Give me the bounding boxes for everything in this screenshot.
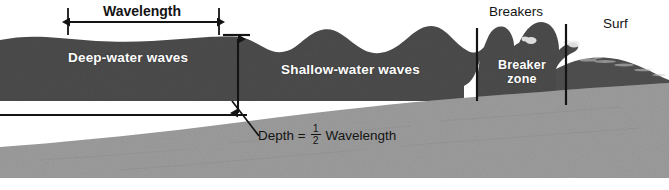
fraction-denominator: 2 bbox=[311, 135, 321, 145]
depth-equation-suffix: Wavelength bbox=[326, 128, 397, 143]
breakers-label: Breakers bbox=[489, 4, 543, 19]
depth-equation-prefix: Depth = bbox=[258, 128, 306, 143]
depth-equation-label: Depth = 1 2 Wavelength bbox=[258, 125, 396, 146]
breaker-zone-label: Breaker zone bbox=[484, 58, 560, 86]
shallow-water-waves-label: Shallow-water waves bbox=[281, 62, 420, 77]
depth-callout-leader bbox=[232, 101, 259, 136]
surf-label: Surf bbox=[603, 16, 628, 31]
wavelength-label: Wavelength bbox=[103, 3, 181, 19]
annotation-overlay bbox=[0, 0, 669, 190]
wave-zones-diagram: Wavelength Deep-water waves Shallow-wate… bbox=[0, 0, 669, 190]
depth-fraction-one-half: 1 2 bbox=[311, 124, 321, 145]
deep-water-waves-label: Deep-water waves bbox=[68, 50, 188, 65]
